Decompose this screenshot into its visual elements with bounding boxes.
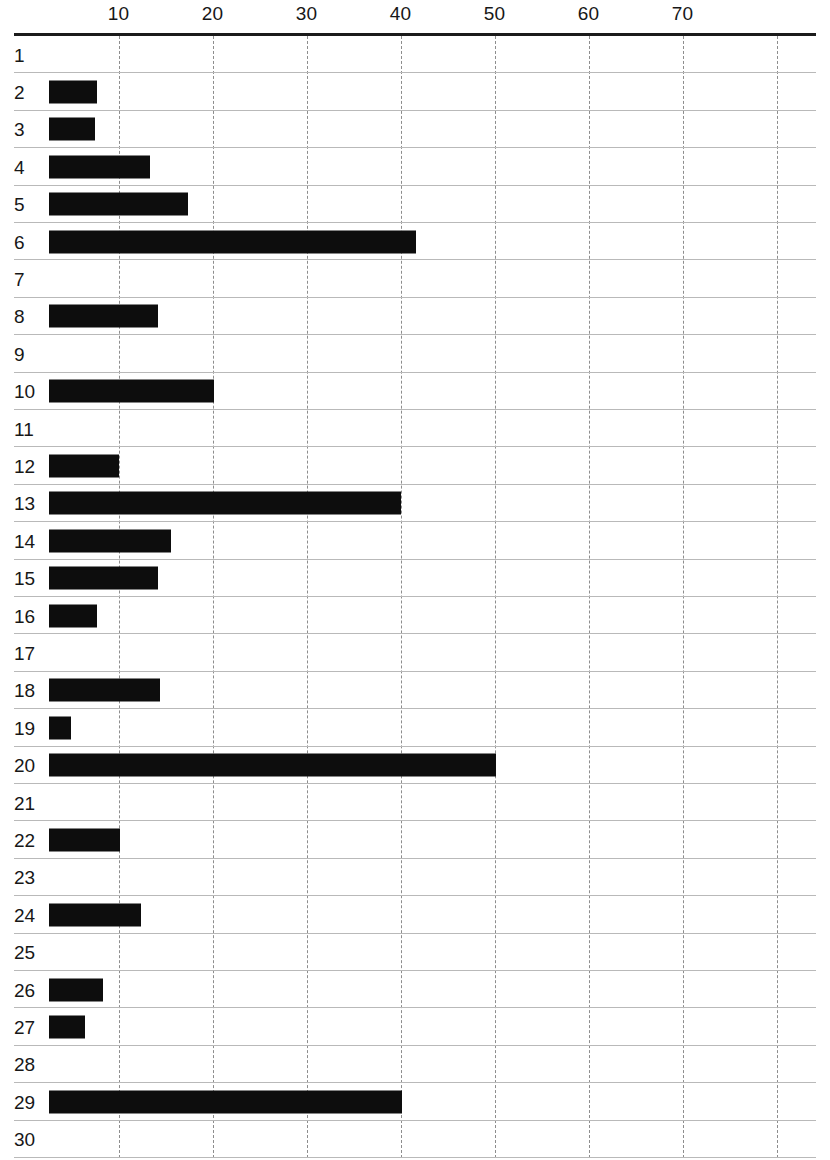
row-separator <box>14 1157 816 1158</box>
chart-row: 17 <box>0 634 830 671</box>
row-label-15: 15 <box>14 569 35 588</box>
chart-row: 20 <box>0 747 830 784</box>
x-tick-label-50: 50 <box>484 4 506 23</box>
chart-row: 4 <box>0 148 830 185</box>
bar-2 <box>49 81 97 104</box>
chart-row: 2 <box>0 73 830 110</box>
chart-row: 28 <box>0 1046 830 1083</box>
bar-16 <box>49 604 97 627</box>
x-tick-label-40: 40 <box>390 4 412 23</box>
bar-22 <box>49 829 120 852</box>
x-axis: 10203040506070 <box>0 0 830 36</box>
row-label-16: 16 <box>14 606 35 625</box>
row-label-21: 21 <box>14 793 35 812</box>
row-label-26: 26 <box>14 980 35 999</box>
row-label-27: 27 <box>14 1018 35 1037</box>
bar-12 <box>49 455 119 478</box>
bar-29 <box>49 1090 402 1113</box>
chart-row: 30 <box>0 1121 830 1158</box>
chart-row: 6 <box>0 223 830 260</box>
bar-27 <box>49 1016 85 1039</box>
x-tick-label-10: 10 <box>108 4 130 23</box>
bar-26 <box>49 978 103 1001</box>
bar-14 <box>49 529 171 552</box>
chart-row: 14 <box>0 522 830 559</box>
chart-row: 29 <box>0 1083 830 1120</box>
bar-4 <box>49 155 150 178</box>
chart-row: 11 <box>0 410 830 447</box>
x-tick-label-60: 60 <box>578 4 600 23</box>
chart-row: 22 <box>0 821 830 858</box>
row-label-28: 28 <box>14 1055 35 1074</box>
chart-row: 1 <box>0 36 830 73</box>
bar-8 <box>49 305 158 328</box>
chart-row: 25 <box>0 934 830 971</box>
row-label-10: 10 <box>14 382 35 401</box>
bar-19 <box>49 716 71 739</box>
bar-6 <box>49 230 416 253</box>
row-label-13: 13 <box>14 494 35 513</box>
bar-10 <box>49 380 214 403</box>
chart-row: 24 <box>0 896 830 933</box>
x-tick-label-30: 30 <box>296 4 318 23</box>
row-label-20: 20 <box>14 756 35 775</box>
row-label-5: 5 <box>14 195 25 214</box>
x-tick-label-70: 70 <box>672 4 694 23</box>
chart-row: 26 <box>0 971 830 1008</box>
bar-24 <box>49 903 141 926</box>
bar-15 <box>49 567 158 590</box>
chart-row: 18 <box>0 672 830 709</box>
chart-row: 9 <box>0 335 830 372</box>
x-tick-label-20: 20 <box>202 4 224 23</box>
row-label-18: 18 <box>14 681 35 700</box>
chart-row: 23 <box>0 859 830 896</box>
chart-row: 15 <box>0 560 830 597</box>
row-label-3: 3 <box>14 120 25 139</box>
chart-row: 8 <box>0 298 830 335</box>
row-label-23: 23 <box>14 868 35 887</box>
row-label-29: 29 <box>14 1092 35 1111</box>
bar-5 <box>49 193 188 216</box>
chart-row: 7 <box>0 260 830 297</box>
chart-row: 13 <box>0 485 830 522</box>
row-label-9: 9 <box>14 344 25 363</box>
bar-13 <box>49 492 401 515</box>
chart-row: 27 <box>0 1008 830 1045</box>
row-label-4: 4 <box>14 157 25 176</box>
row-label-7: 7 <box>14 270 25 289</box>
row-label-19: 19 <box>14 718 35 737</box>
row-label-24: 24 <box>14 905 35 924</box>
chart-row: 12 <box>0 447 830 484</box>
row-label-14: 14 <box>14 531 35 550</box>
chart-row: 16 <box>0 597 830 634</box>
chart-row: 19 <box>0 709 830 746</box>
row-label-8: 8 <box>14 307 25 326</box>
row-label-25: 25 <box>14 943 35 962</box>
bar-20 <box>49 754 496 777</box>
bar-18 <box>49 679 160 702</box>
plot-area: 1234567891011121314151617181920212223242… <box>0 36 830 1158</box>
row-label-11: 11 <box>14 419 34 438</box>
chart-row: 5 <box>0 186 830 223</box>
bar-3 <box>49 118 95 141</box>
row-label-17: 17 <box>14 644 35 663</box>
row-label-2: 2 <box>14 83 25 102</box>
chart-row: 10 <box>0 373 830 410</box>
row-label-30: 30 <box>14 1130 35 1149</box>
row-label-6: 6 <box>14 232 25 251</box>
chart-row: 3 <box>0 111 830 148</box>
chart-row: 21 <box>0 784 830 821</box>
row-label-22: 22 <box>14 831 35 850</box>
row-label-12: 12 <box>14 457 35 476</box>
row-label-1: 1 <box>14 45 25 64</box>
bar-chart: 10203040506070 1234567891011121314151617… <box>0 0 830 1160</box>
